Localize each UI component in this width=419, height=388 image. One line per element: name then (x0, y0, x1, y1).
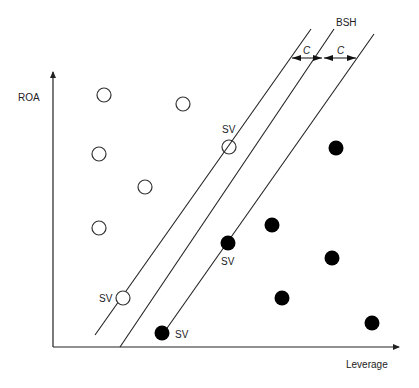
open-points (92, 88, 236, 305)
filled-points (155, 141, 380, 341)
open-point (97, 88, 111, 102)
margin-label-left: C (303, 45, 311, 56)
margin-line-left (95, 29, 311, 335)
open-point (138, 180, 152, 194)
sv-label-lower-filled: SV (175, 329, 189, 340)
margin-label-right: C (337, 45, 345, 56)
y-axis-label: ROA (18, 92, 40, 103)
filled-point (329, 141, 344, 156)
hyperplane-lines (95, 29, 374, 347)
filled-point (265, 218, 280, 233)
svm-diagram: ROA Leverage BSH C C SV SV SV SV (0, 0, 419, 388)
sv-label-upper-open: SV (222, 124, 236, 135)
margin-line-right (165, 34, 374, 331)
filled-support-vector (221, 236, 236, 251)
filled-point (365, 316, 380, 331)
hyperplane-label: BSH (336, 17, 357, 28)
x-axis-label: Leverage (346, 359, 388, 370)
sv-label-upper-filled: SV (221, 256, 235, 267)
open-point (92, 147, 106, 161)
open-support-vector (222, 140, 236, 154)
sv-label-lower-open: SV (99, 293, 113, 304)
filled-point (325, 251, 340, 266)
open-point (92, 221, 106, 235)
filled-point (275, 291, 290, 306)
open-support-vector (116, 291, 130, 305)
filled-support-vector (155, 326, 170, 341)
axes (53, 72, 399, 347)
open-point (176, 97, 190, 111)
